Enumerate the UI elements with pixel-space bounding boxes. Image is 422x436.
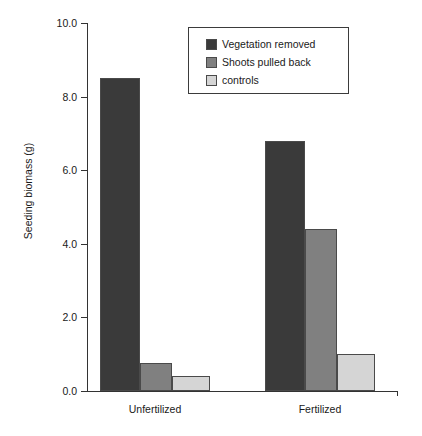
x-axis-line — [88, 391, 398, 392]
legend-item: Shoots pulled back — [206, 53, 348, 71]
y-axis-tick-label: 0.0 — [31, 386, 77, 396]
bar — [100, 78, 140, 391]
y-axis-tick-mark — [81, 97, 88, 98]
bar — [305, 229, 337, 391]
x-axis-group-label: Fertilized — [260, 403, 380, 415]
legend-label: Vegetation removed — [222, 39, 315, 50]
y-axis-tick-mark — [81, 317, 88, 318]
legend-label: Shoots pulled back — [222, 57, 311, 68]
y-axis-tick-label: 8.0 — [31, 92, 77, 102]
bar — [140, 363, 172, 391]
bar-chart-figure: Seeding biomass (g) 0.02.04.06.08.010.0 … — [0, 0, 422, 436]
bar — [337, 354, 375, 391]
y-axis-tick-label: 6.0 — [31, 165, 77, 175]
y-axis-tick-label: 2.0 — [31, 312, 77, 322]
chart-legend: Vegetation removedShoots pulled backcont… — [188, 27, 349, 94]
legend-swatch-icon — [206, 75, 217, 86]
y-axis-tick-mark — [81, 23, 88, 24]
y-axis-tick-mark — [81, 391, 88, 392]
y-axis-tick-label: 10.0 — [31, 18, 77, 28]
legend-item: Vegetation removed — [206, 35, 348, 53]
x-axis-group-label: Unfertilized — [95, 403, 215, 415]
legend-swatch-icon — [206, 39, 217, 50]
bar — [265, 141, 305, 391]
y-axis-tick-mark — [81, 244, 88, 245]
x-axis-endcap — [397, 391, 398, 396]
legend-item: controls — [206, 71, 348, 89]
legend-swatch-icon — [206, 57, 217, 68]
legend-label: controls — [222, 75, 259, 86]
y-axis-tick-label: 4.0 — [31, 239, 77, 249]
bar — [172, 376, 210, 391]
y-axis-tick-mark — [81, 170, 88, 171]
